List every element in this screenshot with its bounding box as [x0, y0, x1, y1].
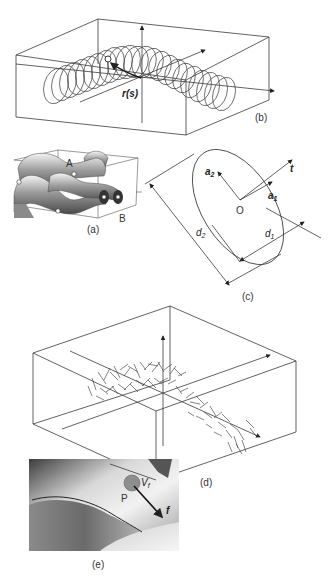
figure-canvas: r(s) (b) A B (a)	[0, 0, 332, 576]
d1-dimension	[240, 222, 304, 261]
t-vector	[240, 160, 292, 200]
y-axis	[62, 355, 270, 429]
panel-c-label: (c)	[242, 291, 254, 302]
d1-label: d1	[265, 228, 275, 240]
panel-e-label: (e)	[92, 559, 104, 570]
bounding-box	[16, 19, 274, 135]
a1-label: a1	[268, 190, 278, 202]
d2-extension-top	[145, 154, 194, 184]
r-label: r(s)	[122, 88, 139, 99]
t-label: t	[290, 163, 294, 174]
d2-dimension	[150, 184, 229, 285]
origin-point	[105, 56, 111, 62]
d2-label: d2	[196, 227, 206, 239]
panel-a: A B (a)	[14, 150, 142, 235]
point-p-volume	[124, 475, 140, 491]
a2-label: a2	[205, 166, 215, 178]
panel-e: P Vf f (e)	[29, 459, 179, 570]
origin-label: O	[236, 205, 244, 216]
x-axis	[70, 351, 260, 437]
panel-a-label: (a)	[87, 224, 99, 235]
panel-b-label: (b)	[255, 112, 267, 123]
point-b-label: B	[119, 213, 126, 224]
a2-vector	[218, 172, 240, 200]
vector-field-segments	[88, 362, 256, 454]
point-a-label: A	[66, 158, 73, 169]
bounding-box	[33, 306, 296, 480]
p-label: P	[121, 493, 128, 504]
panel-c: a2 a1 t O d2 d1 (c)	[145, 134, 321, 302]
d2-extension-bottom	[227, 254, 281, 284]
panel-b: r(s) (b)	[16, 19, 274, 135]
d1-extension-left	[212, 225, 240, 262]
panel-d-label: (d)	[200, 477, 212, 488]
